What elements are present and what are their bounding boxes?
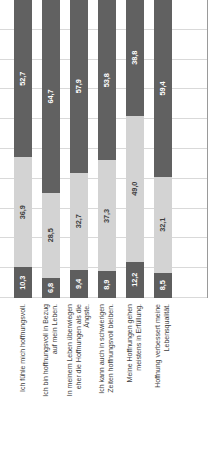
category-label-line: In meinem Leben überwiegen [66, 304, 75, 396]
value-axis-line [207, 0, 208, 298]
bar-row: 10,336,952,7 [9, 0, 37, 298]
category-label: Ich fühle mich hoffnungsvoll. [9, 298, 37, 458]
category-axis-labels: Ich fühle mich hoffnungsvoll.Ich bin hof… [0, 298, 218, 458]
category-label: In meinem Leben überwiegeneher die Hoffn… [65, 298, 93, 458]
bar-segment[interactable]: 57,9 [70, 0, 88, 173]
category-label-line: Zeiten hoffnungsvoll bleiben. [107, 304, 116, 394]
bar-segment[interactable]: 36,9 [14, 157, 32, 267]
bar-value-label: 32,7 [75, 214, 82, 228]
bar-row: 8,937,353,8 [93, 0, 121, 298]
bar-segment[interactable]: 52,7 [14, 0, 32, 157]
bar-row: 8,532,159,4 [149, 0, 177, 298]
bar-segment[interactable]: 49,0 [126, 116, 144, 262]
category-label-line: Ich kann auch in schwierigen [98, 304, 107, 394]
category-label-line: Ich fühle mich hoffnungsvoll. [19, 304, 28, 392]
bar-value-label: 53,8 [103, 73, 110, 87]
bar-segment[interactable]: 53,8 [98, 0, 116, 160]
bar-value-label: 9,4 [75, 279, 82, 289]
bar-segment[interactable]: 64,7 [42, 0, 60, 193]
category-label-line: eher die Hoffnungen als die [75, 304, 84, 396]
category-label: Ich kann auch in schwierigenZeiten hoffn… [93, 298, 121, 458]
bar-value-label: 12,2 [131, 273, 138, 287]
category-label-line: Hoffnung verbessert meine [154, 304, 163, 388]
stacked-bar[interactable]: 12,249,038,8 [126, 0, 144, 298]
category-label-line: auf mein Leben. [51, 304, 60, 397]
bar-value-label: 57,9 [75, 79, 82, 93]
bar-value-label: 8,9 [103, 280, 110, 290]
category-label: Hoffnung verbessert meineLebensqualität. [149, 298, 177, 458]
bar-value-label: 28,5 [47, 228, 54, 242]
category-label: Ich bin hoffnungsvoll in Bezugauf mein L… [37, 298, 65, 458]
bar-segment[interactable]: 38,8 [126, 0, 144, 116]
bar-value-label: 6,8 [47, 283, 54, 293]
stacked-bar[interactable]: 8,532,159,4 [154, 0, 172, 298]
bar-segment[interactable]: 59,4 [154, 0, 172, 177]
bar-segment[interactable]: 6,8 [42, 278, 60, 298]
plot-area: Ich fühle mich hoffnungsvoll.Ich bin hof… [0, 0, 218, 458]
bars-area: 10,336,952,76,828,564,79,432,757,98,937,… [0, 0, 218, 298]
bar-row: 6,828,564,7 [37, 0, 65, 298]
bar-value-label: 64,7 [47, 89, 54, 103]
bar-value-label: 36,9 [19, 205, 26, 219]
bar-value-label: 32,1 [159, 218, 166, 232]
category-label-line: Ich bin hoffnungsvoll in Bezug [42, 304, 51, 397]
bar-segment[interactable]: 32,1 [154, 177, 172, 273]
bar-value-label: 10,3 [19, 276, 26, 290]
bar-segment[interactable]: 12,2 [126, 262, 144, 298]
stacked-bar[interactable]: 10,336,952,7 [14, 0, 32, 298]
bar-value-label: 37,3 [103, 209, 110, 223]
bar-segment[interactable]: 32,7 [70, 173, 88, 270]
category-label-line: meistens in Erfüllung. [135, 304, 144, 382]
bar-row: 9,432,757,9 [65, 0, 93, 298]
bar-value-label: 8,5 [159, 280, 166, 290]
bar-row: 12,249,038,8 [121, 0, 149, 298]
chart-canvas: Ich fühle mich hoffnungsvoll.Ich bin hof… [0, 0, 218, 458]
bar-segment[interactable]: 37,3 [98, 160, 116, 271]
bar-value-label: 38,8 [131, 51, 138, 65]
bar-value-label: 52,7 [19, 72, 26, 86]
bar-segment[interactable]: 10,3 [14, 267, 32, 298]
stacked-bar[interactable]: 9,432,757,9 [70, 0, 88, 298]
category-label-line: Ängste. [83, 304, 92, 396]
category-label-line: Meine Hoffnungen gehen [126, 304, 135, 382]
bar-segment[interactable]: 8,9 [98, 271, 116, 298]
bar-segment[interactable]: 8,5 [154, 273, 172, 298]
category-label-line: Lebensqualität. [163, 304, 172, 388]
bar-value-label: 59,4 [159, 82, 166, 96]
bar-segment[interactable]: 28,5 [42, 193, 60, 278]
stacked-bar[interactable]: 6,828,564,7 [42, 0, 60, 298]
bar-segment[interactable]: 9,4 [70, 270, 88, 298]
stacked-bar[interactable]: 8,937,353,8 [98, 0, 116, 298]
bar-rows: 10,336,952,76,828,564,79,432,757,98,937,… [9, 0, 177, 298]
bar-value-label: 49,0 [131, 182, 138, 196]
chart-figure: Ich fühle mich hoffnungsvoll.Ich bin hof… [0, 0, 218, 458]
category-label: Meine Hoffnungen gehenmeistens in Erfüll… [121, 298, 149, 458]
